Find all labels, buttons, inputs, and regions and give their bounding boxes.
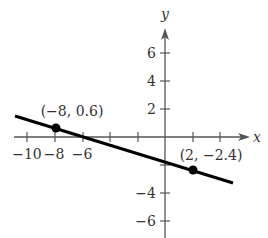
line-chart: x −10 −8 −6 y 6 4 2 −4 −6 (−8, 0.6) (2, …	[0, 0, 268, 238]
point-label: (2, −2.4)	[180, 147, 243, 163]
point-label: (−8, 0.6)	[41, 103, 104, 119]
x-tick-label: −10	[12, 146, 42, 162]
y-tick-label: 6	[147, 45, 156, 61]
data-point	[52, 124, 61, 133]
y-tick-label: −4	[135, 185, 156, 201]
y-tick-label: 2	[147, 101, 156, 117]
data-point	[189, 166, 198, 175]
y-axis-label: y	[160, 6, 170, 22]
x-tick-label: −8	[44, 146, 65, 162]
x-tick-label: −6	[72, 146, 93, 162]
y-tick-label: 4	[147, 73, 156, 89]
x-axis-label: x	[253, 129, 261, 145]
y-axis: y 6 4 2 −4 −6	[135, 6, 170, 238]
y-tick-label: −6	[135, 213, 156, 229]
